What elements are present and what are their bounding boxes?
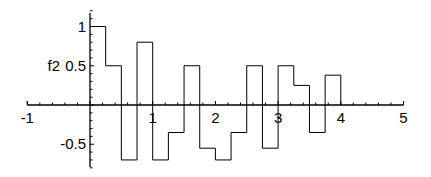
axis-labels: -11234510.5-0.5 [21,18,408,153]
step-function-plot: -11234510.5-0.5 f2 [0,0,431,177]
f2-step-curve [90,27,341,160]
x-tick-label: -1 [21,109,34,126]
x-tick-label: 2 [211,109,219,126]
x-tick-label: 4 [337,109,345,126]
y-tick-label: -0.5 [60,135,86,152]
x-tick-label: 5 [399,109,407,126]
y-axis-label: f2 [47,57,60,74]
y-tick-label: 0.5 [65,57,86,74]
y-tick-label: 1 [78,18,86,35]
